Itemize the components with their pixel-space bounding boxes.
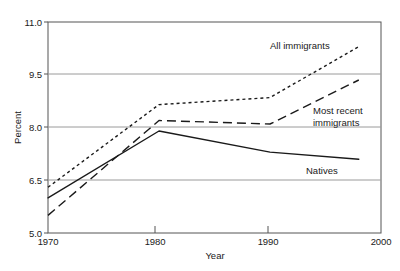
annotation-most-recent-line2: immigrants bbox=[313, 117, 359, 128]
xtick-label-2000: 2000 bbox=[361, 236, 400, 247]
xtick-label-1970: 1970 bbox=[28, 236, 68, 247]
chart-figure: 11.0 9.5 8.0 6.5 5.0 1970 1980 1990 2000… bbox=[0, 0, 400, 271]
x-axis-title: Year bbox=[185, 250, 245, 261]
y-axis-title: Percent bbox=[12, 98, 23, 158]
annotation-natives: Natives bbox=[306, 165, 338, 177]
xtick-label-1990: 1990 bbox=[248, 236, 288, 247]
ytick-label-9-5: 9.5 bbox=[6, 69, 42, 80]
ytick-label-11-0: 11.0 bbox=[6, 17, 42, 28]
annotation-most-recent-line1: Most recent bbox=[313, 105, 363, 116]
ytick-label-6-5: 6.5 bbox=[6, 175, 42, 186]
annotation-most-recent-immigrants: Most recent immigrants bbox=[313, 105, 363, 128]
annotation-all-immigrants: All immigrants bbox=[270, 40, 330, 52]
xtick-label-1980: 1980 bbox=[135, 236, 175, 247]
chart-canvas bbox=[0, 0, 400, 271]
